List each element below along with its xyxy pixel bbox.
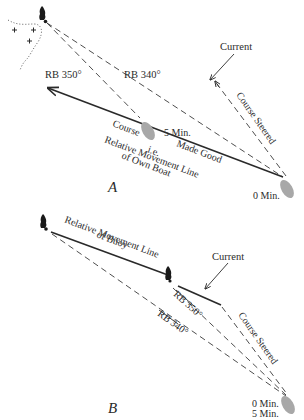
label-made-good: Made Good (175, 138, 223, 165)
label-course-steered: Course Steered (234, 90, 278, 146)
label-rb350: RB 350° (45, 69, 82, 80)
panel-b: Relative Movement Line of Buoy Current R… (40, 214, 298, 419)
label-current: Current (220, 41, 252, 52)
buoy-relative-icon (165, 266, 171, 283)
course-steered-line (222, 307, 287, 394)
label-rb350: RB 350° (172, 288, 205, 319)
panel-letter-a: A (107, 179, 118, 195)
label-5min: 5 Min. (164, 127, 191, 138)
current-arrow (210, 54, 234, 80)
course-steered-arrowhead (215, 81, 219, 87)
buoy-icon (39, 6, 47, 23)
label-rb340: RB 340° (156, 308, 191, 337)
label-rb340: RB 340° (124, 69, 161, 80)
current-arrow (205, 263, 228, 289)
label-5min: 5 Min. (252, 408, 279, 419)
label-0min: 0 Min. (253, 190, 280, 201)
course-steered-line (217, 84, 286, 176)
panel-letter-b: B (108, 400, 117, 416)
boat-icon (278, 394, 298, 417)
label-current: Current (212, 251, 244, 262)
buoy-icon (40, 214, 48, 231)
boat-0min-icon (277, 178, 297, 201)
shoreline-dotted (8, 20, 41, 70)
rock-symbols (12, 28, 36, 44)
label-course-steered: Course Steered (236, 310, 280, 366)
relative-movement-diagram: RB 350° RB 340° Current Course Steered 5… (0, 0, 304, 420)
panel-a: RB 350° RB 340° Current Course Steered 5… (8, 6, 297, 201)
label-course: Course (111, 118, 142, 139)
